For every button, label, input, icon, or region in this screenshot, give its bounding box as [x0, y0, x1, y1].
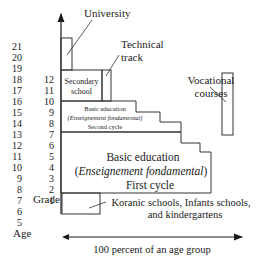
university-label: University	[84, 7, 131, 19]
age-label: 14	[12, 118, 22, 129]
vocational-courses-label: courses	[195, 87, 228, 99]
age-label: 12	[12, 140, 22, 151]
grade-label: 11	[44, 85, 54, 96]
x-axis-label: 100 percent of an age group	[93, 244, 211, 255]
grade-label: 7	[49, 129, 54, 140]
secondary-school-label: school	[71, 87, 93, 96]
grade-axis-label: Grade	[33, 193, 60, 205]
age-label: 18	[12, 74, 22, 85]
age-label: 9	[17, 173, 22, 184]
age-label: 19	[12, 63, 22, 74]
koranic-schools-label: and kindergartens	[148, 209, 223, 220]
second-cycle-label: (Enseignement fondamental)	[68, 114, 143, 122]
first-cycle-label: First cycle	[126, 179, 174, 192]
age-axis-label: Age	[13, 227, 31, 239]
technical-track-label: track	[121, 51, 143, 63]
age-label: 16	[12, 96, 22, 107]
age-label: 7	[17, 195, 22, 206]
secondary-school-label: Secondary	[65, 77, 99, 86]
koranic-schools-label: Koranic schools, Infants schools,	[111, 197, 250, 208]
vocational-courses-label: Vocational	[188, 74, 235, 86]
grade-labels: 12 11 10 9 8 7 6 5 4 3 2 1	[44, 74, 54, 206]
age-label: 13	[12, 129, 22, 140]
university-box	[61, 38, 72, 70]
technical-track-pointer	[106, 55, 119, 76]
arrowhead-left-icon	[62, 234, 69, 240]
age-label: 11	[12, 151, 22, 162]
koranic-pointer	[89, 202, 106, 208]
age-label: 8	[17, 184, 22, 195]
first-cycle-label: (Enseignement fondamental)	[75, 165, 208, 178]
grade-label: 3	[49, 173, 54, 184]
grade-label: 10	[44, 96, 54, 107]
technical-track-label: Technical	[121, 38, 164, 50]
grade-label: 4	[49, 162, 54, 173]
grade-label: 6	[49, 140, 54, 151]
education-system-diagram: 21 20 19 18 17 16 15 14 13 12 11 10 9 8 …	[0, 0, 279, 262]
grade-label: 12	[44, 74, 54, 85]
age-label: 15	[12, 107, 22, 118]
grade-label: 5	[49, 151, 54, 162]
age-label: 10	[12, 162, 22, 173]
age-label: 17	[12, 85, 22, 96]
grade-label: 8	[49, 118, 54, 129]
age-label: 21	[12, 41, 22, 52]
second-cycle-label: Basic education	[84, 105, 126, 112]
age-label: 6	[17, 206, 22, 217]
koranic-schools-box	[62, 193, 100, 214]
second-cycle-label: Second cycle	[88, 123, 123, 130]
grade-label: 9	[49, 107, 54, 118]
first-cycle-label: Basic education	[106, 151, 179, 163]
age-label: 20	[12, 52, 22, 63]
age-labels: 21 20 19 18 17 16 15 14 13 12 11 10 9 8 …	[12, 41, 22, 228]
